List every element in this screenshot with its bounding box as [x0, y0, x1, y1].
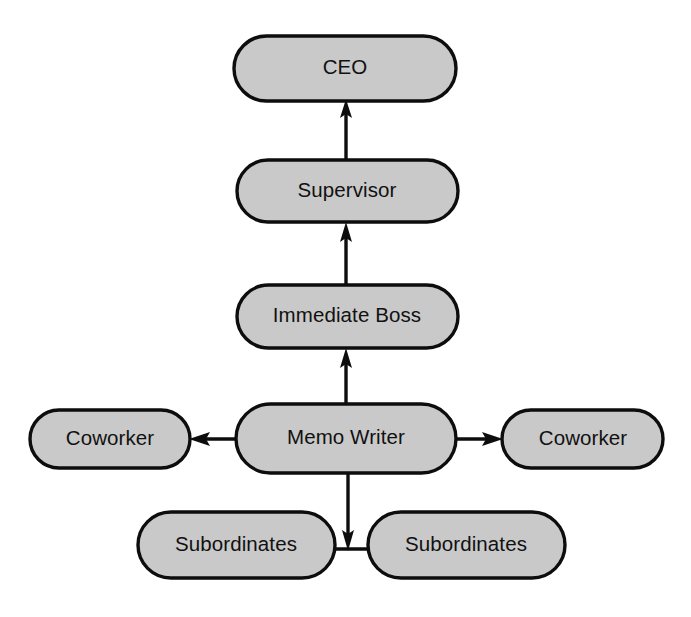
node-coworker-left[interactable]: Coworker [30, 410, 190, 468]
connector-immediate-boss-to-supervisor [340, 222, 352, 285]
node-coworker-right[interactable]: Coworker [502, 410, 663, 468]
org-flow-diagram: CEO Supervisor Immediate Boss Coworker C… [0, 0, 691, 617]
connector-memo-writer-to-coworker-right [452, 432, 503, 446]
node-coworker-left-label: Coworker [66, 426, 155, 449]
diagram-canvas: CEO Supervisor Immediate Boss Coworker C… [0, 0, 691, 617]
node-subordinates-left[interactable]: Subordinates [138, 512, 335, 578]
connector-memo-writer-to-subordinates [342, 470, 354, 551]
node-subordinates-right-label: Subordinates [405, 532, 527, 555]
connector-memo-writer-to-coworker-left [189, 432, 240, 446]
node-immediate-boss-label: Immediate Boss [273, 303, 421, 326]
node-supervisor-label: Supervisor [298, 178, 397, 201]
node-ceo[interactable]: CEO [234, 36, 456, 101]
node-coworker-right-label: Coworker [539, 426, 628, 449]
node-subordinates-left-label: Subordinates [175, 532, 297, 555]
node-subordinates-right[interactable]: Subordinates [368, 512, 565, 578]
node-memo-writer-label: Memo Writer [287, 425, 405, 448]
node-immediate-boss[interactable]: Immediate Boss [237, 285, 458, 348]
node-supervisor[interactable]: Supervisor [237, 160, 458, 222]
node-ceo-label: CEO [323, 55, 368, 78]
connector-supervisor-to-ceo [340, 99, 352, 160]
connector-memo-writer-to-immediate-boss [340, 348, 352, 404]
node-memo-writer[interactable]: Memo Writer [236, 404, 456, 473]
